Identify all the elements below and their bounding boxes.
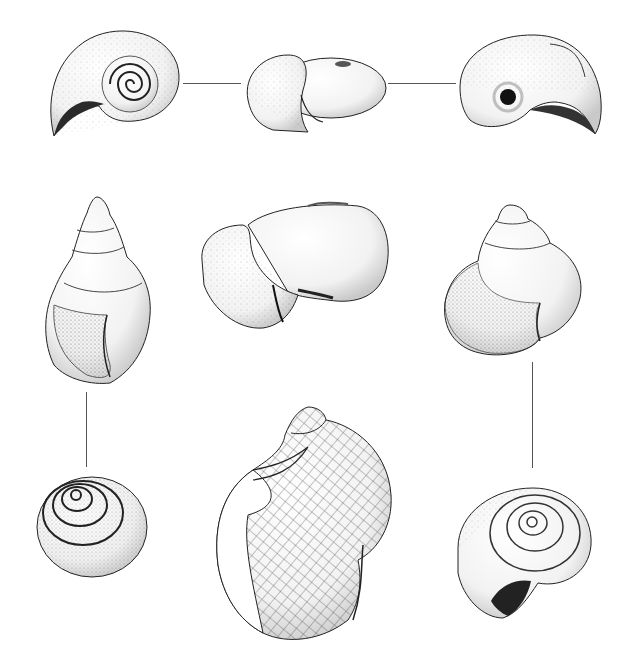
connector-line-top-left [183, 83, 241, 84]
connector-line-top-right [388, 83, 456, 84]
shell-lymnaeid-apertural [42, 195, 154, 385]
shell-viviparid-apertural [440, 203, 585, 358]
shell-planorbid-umbilical [455, 32, 603, 142]
shell-planorbid-apical [44, 24, 184, 144]
shell-lymnaeid-apical [35, 475, 150, 580]
connector-line-right-vertical [532, 362, 533, 468]
shell-cancellate-apertural [213, 405, 398, 645]
connector-line-left-vertical [86, 392, 87, 467]
shell-viviparid-basal [453, 483, 595, 623]
shell-planorbid-apertural [243, 50, 388, 140]
shell-physid-lateral [198, 200, 393, 335]
shell-illustration-plate [0, 0, 622, 664]
